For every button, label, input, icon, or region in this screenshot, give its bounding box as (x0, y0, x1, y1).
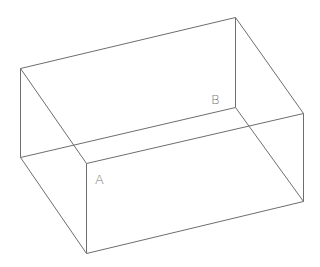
back-top-edge (21, 18, 236, 69)
vertex-label-a: A (95, 172, 104, 187)
cuboid-diagram: A B (0, 0, 320, 267)
cuboid-edges (21, 18, 304, 254)
top-right-depth-edge (236, 18, 304, 114)
vertex-label-b: B (211, 92, 220, 107)
bottom-left-depth-edge (21, 158, 87, 254)
front-bottom-edge (87, 202, 304, 254)
top-left-depth-edge (21, 69, 87, 164)
